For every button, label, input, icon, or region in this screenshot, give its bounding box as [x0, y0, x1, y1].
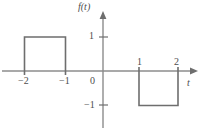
y-tick-label-negative-one: −1 [84, 100, 95, 110]
negative-pulse-trace [139, 67, 178, 106]
x-tick-label-positive-two: 2 [174, 57, 179, 67]
positive-pulse-path [25, 37, 66, 75]
x-tick-label-negative-one: −1 [59, 76, 70, 86]
x-tick-label-negative-two: −2 [18, 76, 29, 86]
waveform-figure: f(t) t 1 −1 0 −2 −1 1 2 [0, 0, 205, 132]
y-axis-group [100, 11, 107, 128]
y-axis-label: f(t) [78, 2, 90, 12]
x-axis-arrowhead [190, 67, 198, 74]
x-axis-label: t [187, 78, 190, 88]
negative-pulse-path [139, 67, 178, 106]
x-tick-label-positive-one: 1 [137, 57, 142, 67]
y-axis-arrowhead [100, 11, 107, 19]
origin-label: 0 [90, 76, 95, 86]
y-tick-label-positive-one: 1 [89, 31, 94, 41]
x-axis-group [2, 67, 198, 74]
positive-pulse-trace [25, 37, 66, 75]
